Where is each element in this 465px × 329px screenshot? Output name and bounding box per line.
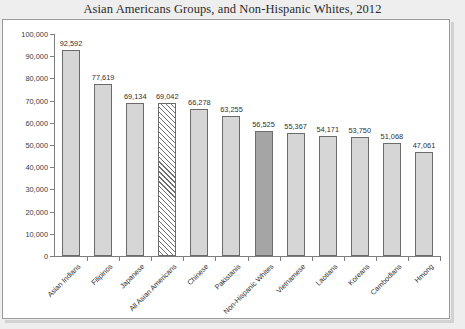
bar[interactable]	[351, 137, 369, 256]
x-axis-category-label: Japanese	[118, 262, 146, 290]
chart-title: Asian Americans Groups, and Non-Hispanic…	[0, 0, 465, 18]
y-axis-tick-label: 40,000	[25, 163, 48, 172]
x-axis-category-label: Laotians	[313, 262, 339, 288]
x-axis-category-label: Hmong	[413, 262, 436, 285]
bar-value-label: 53,750	[348, 126, 371, 135]
y-axis-tick-label: 50,000	[25, 141, 48, 150]
bar-group[interactable]: 56,525	[248, 34, 280, 256]
bar[interactable]	[383, 143, 401, 256]
bar[interactable]	[319, 136, 337, 256]
panel-shadow-bottom	[5, 320, 454, 323]
bar[interactable]	[415, 152, 433, 256]
y-axis-tick-label: 80,000	[25, 74, 48, 83]
x-axis-tick	[119, 256, 120, 261]
y-axis-tick-label: 20,000	[25, 207, 48, 216]
chart-panel: 010,00020,00030,00040,00050,00060,00070,…	[2, 19, 450, 319]
bar-group[interactable]: 54,171	[312, 34, 344, 256]
bar-group[interactable]: 55,367	[280, 34, 312, 256]
bar-value-label: 69,042	[156, 92, 179, 101]
bar-value-label: 77,619	[92, 73, 115, 82]
bar-group[interactable]: 69,134	[119, 34, 151, 256]
x-axis-tick	[183, 256, 184, 261]
x-axis-category-label: Chinese	[186, 262, 211, 287]
y-axis-tick-label: 30,000	[25, 185, 48, 194]
bar-value-label: 92,592	[60, 39, 83, 48]
y-axis-tick-label: 100,000	[21, 30, 48, 39]
bar[interactable]	[190, 109, 208, 256]
bar-group[interactable]: 66,278	[183, 34, 215, 256]
bar[interactable]	[287, 133, 305, 256]
bar-value-label: 56,525	[252, 120, 275, 129]
x-axis-category-label: Koreans	[346, 262, 371, 287]
x-axis-tick	[215, 256, 216, 261]
bar[interactable]	[126, 103, 144, 256]
bar-value-label: 47,061	[413, 141, 436, 150]
bar-value-label: 63,255	[220, 105, 243, 114]
bar-value-label: 55,367	[284, 122, 307, 131]
x-axis-tick	[151, 256, 152, 261]
bar-group[interactable]: 77,619	[87, 34, 119, 256]
bar-group[interactable]: 69,042	[151, 34, 183, 256]
bar-group[interactable]: 63,255	[215, 34, 247, 256]
y-axis-tick-label: 0	[44, 252, 48, 261]
x-axis-category-label: Filipinos	[89, 262, 114, 287]
x-axis-category-label: Vietnamese	[274, 262, 307, 295]
x-axis-category-label: Cambodians	[368, 262, 403, 297]
bar-value-label: 66,278	[188, 98, 211, 107]
y-axis-tick-label: 70,000	[25, 96, 48, 105]
y-axis-tick-label: 60,000	[25, 118, 48, 127]
bar-value-label: 54,171	[316, 125, 339, 134]
bar[interactable]	[62, 50, 80, 256]
x-axis-tick	[344, 256, 345, 261]
x-axis-tick	[312, 256, 313, 261]
y-axis-tick	[50, 256, 55, 257]
bar[interactable]	[255, 131, 273, 256]
bar[interactable]	[158, 103, 176, 256]
bar-value-label: 69,134	[124, 92, 147, 101]
x-axis-tick	[87, 256, 88, 261]
x-axis-tick	[408, 256, 409, 261]
x-axis-category-label: Pakistanis	[213, 262, 243, 292]
panel-shadow-right	[451, 22, 454, 322]
y-axis-tick-label: 90,000	[25, 52, 48, 61]
bar-value-label: 51,068	[381, 132, 404, 141]
x-axis-category-label: Asian Indians	[46, 262, 83, 299]
x-axis-tick	[248, 256, 249, 261]
y-axis-tick-label: 10,000	[25, 229, 48, 238]
bar[interactable]	[94, 84, 112, 256]
bar-group[interactable]: 47,061	[408, 34, 440, 256]
bar[interactable]	[222, 116, 240, 256]
bar-group[interactable]: 92,592	[55, 34, 87, 256]
x-axis-tick	[440, 256, 441, 261]
plot-area: 010,00020,00030,00040,00050,00060,00070,…	[55, 34, 440, 256]
x-axis-tick	[376, 256, 377, 261]
bar-group[interactable]: 53,750	[344, 34, 376, 256]
bar-group[interactable]: 51,068	[376, 34, 408, 256]
x-axis-tick	[280, 256, 281, 261]
